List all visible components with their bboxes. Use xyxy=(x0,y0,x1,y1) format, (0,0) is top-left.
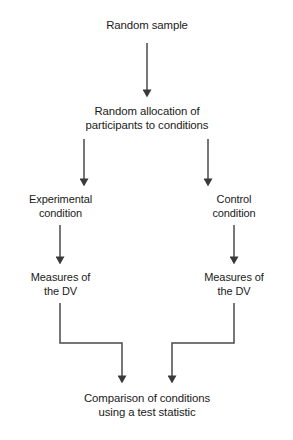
node-comparison-of-conditions-label: Comparison of conditions using a test st… xyxy=(63,392,231,420)
node-experimental-condition-label: Experimental condition xyxy=(16,193,105,220)
node-measures-dv-experimental: Measures of the DV xyxy=(16,266,105,303)
node-comparison-of-conditions: Comparison of conditions using a test st… xyxy=(63,385,231,427)
node-measures-dv-experimental-label: Measures of the DV xyxy=(16,271,105,298)
node-measures-dv-control-label: Measures of the DV xyxy=(190,271,278,298)
flowchart-diagram: Random sample Random allocation of parti… xyxy=(0,0,293,440)
node-random-allocation: Random allocation of participants to con… xyxy=(63,99,231,139)
node-control-condition: Control condition xyxy=(190,188,278,225)
node-random-sample-label: Random sample xyxy=(63,19,231,33)
node-measures-dv-control: Measures of the DV xyxy=(190,266,278,303)
node-random-allocation-label: Random allocation of participants to con… xyxy=(63,105,231,133)
node-random-sample: Random sample xyxy=(63,9,231,43)
node-control-condition-label: Control condition xyxy=(190,193,278,220)
edge-measures-left-to-comparison xyxy=(60,303,122,376)
edge-measures-right-to-comparison xyxy=(172,303,234,376)
node-experimental-condition: Experimental condition xyxy=(16,188,105,225)
